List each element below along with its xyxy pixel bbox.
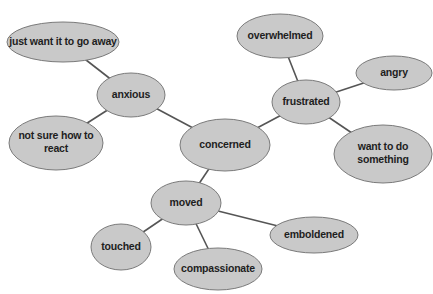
node-label: react — [44, 142, 69, 154]
node-label: emboldened — [284, 228, 344, 240]
node-concerned: concerned — [180, 119, 270, 171]
node-moved: moved — [151, 181, 221, 225]
mind-map-diagram: concernedanxiousjust want it to go awayn… — [0, 0, 433, 294]
node-touched: touched — [91, 224, 151, 270]
node-not-sure-how-to-react: not sure how toreact — [9, 116, 103, 170]
node-label: touched — [101, 240, 140, 252]
node-just-want-it-to-go-away: just want it to go away — [7, 22, 119, 62]
nodes-layer: concernedanxiousjust want it to go awayn… — [7, 14, 432, 290]
node-label: want to do — [357, 140, 409, 152]
node-label: just want it to go away — [8, 35, 117, 47]
node-angry: angry — [356, 56, 432, 90]
node-frustrated: frustrated — [272, 80, 340, 124]
node-label: overwhelmed — [248, 29, 313, 41]
node-label: moved — [170, 196, 203, 208]
node-label: compassionate — [181, 262, 255, 274]
node-compassionate: compassionate — [174, 248, 262, 290]
node-label: anxious — [112, 88, 151, 100]
node-label: frustrated — [282, 95, 329, 107]
node-overwhelmed: overwhelmed — [237, 14, 323, 58]
node-anxious: anxious — [97, 73, 165, 117]
node-label: not sure how to — [18, 129, 93, 141]
node-want-to-do-something: want to dosomething — [334, 125, 432, 183]
node-label: something — [357, 153, 408, 165]
node-emboldened: emboldened — [270, 217, 358, 253]
node-label: concerned — [199, 138, 250, 150]
node-label: angry — [380, 66, 408, 78]
